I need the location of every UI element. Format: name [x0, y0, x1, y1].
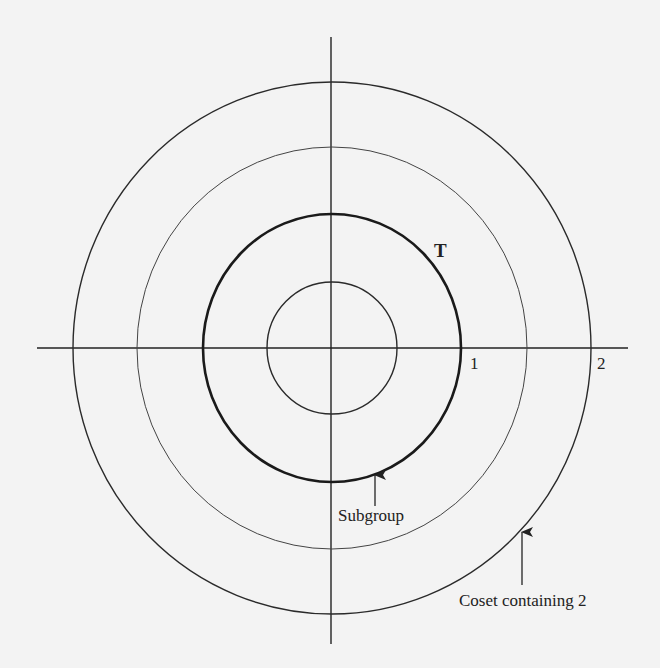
tick-1-label: 1 — [470, 354, 479, 373]
coset-circles-diagram: T 1 2 Subgroup Coset containing 2 — [0, 0, 660, 668]
coset-label: Coset containing 2 — [459, 591, 586, 610]
subgroup-label: Subgroup — [338, 506, 404, 525]
circle-T-label: T — [434, 240, 447, 261]
tick-2-label: 2 — [597, 354, 606, 373]
